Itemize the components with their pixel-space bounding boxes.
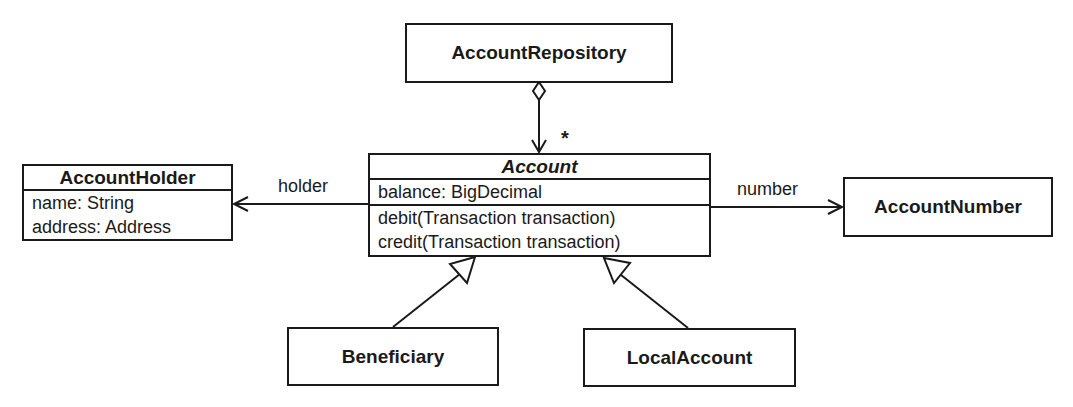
holder-label: holder [278,176,328,197]
attributes-section: balance: BigDecimal [370,180,709,206]
class-beneficiary: Beneficiary [287,327,499,386]
class-account-repository: AccountRepository [405,23,673,83]
class-account-holder: AccountHolder name: String address: Addr… [22,164,233,241]
beneficiary-generalization [393,257,475,327]
class-local-account: LocalAccount [583,328,796,387]
class-name: AccountHolder [24,166,231,191]
attribute: address: Address [24,215,231,239]
operations-section: debit(Transaction transaction) credit(Tr… [370,206,709,254]
number-label: number [737,179,798,200]
class-name: AccountRepository [451,42,626,64]
class-account-number: AccountNumber [843,177,1053,237]
localaccount-generalization [604,258,688,328]
operation: debit(Transaction transaction) [370,206,709,230]
aggregation-diamond-icon [533,82,545,100]
attribute: name: String [24,191,231,215]
class-name: LocalAccount [627,347,753,369]
multiplicity-label: * [561,127,569,150]
aggregation-connector [532,82,546,152]
holder-connector [234,197,368,211]
class-account: Account balance: BigDecimal debit(Transa… [368,153,711,257]
class-name: Beneficiary [342,346,444,368]
operation: credit(Transaction transaction) [370,230,709,254]
number-connector [710,200,842,214]
class-name: AccountNumber [874,196,1022,218]
attribute: balance: BigDecimal [370,180,709,204]
class-name: Account [370,155,709,180]
